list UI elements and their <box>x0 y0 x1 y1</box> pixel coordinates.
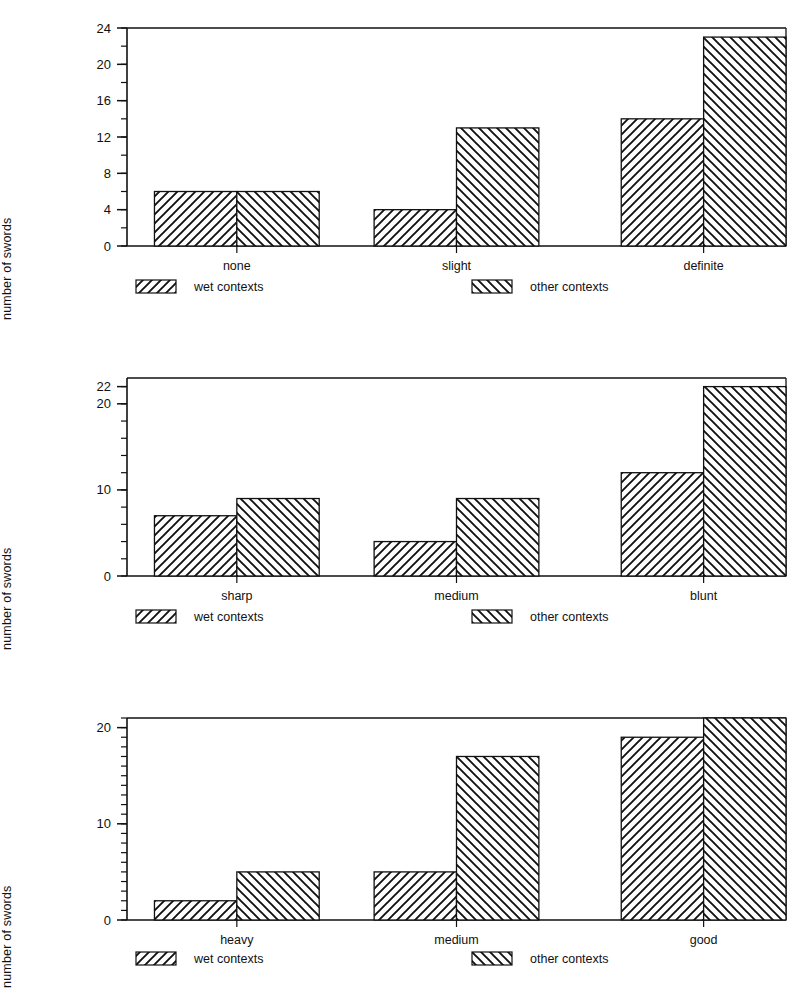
wet-contexts-swatch <box>136 610 176 623</box>
legend-label: wet contexts <box>193 280 263 294</box>
y-axis-title: number of swords <box>0 885 14 988</box>
y-tick-label: 22 <box>97 379 111 394</box>
bar-other-contexts <box>704 37 786 246</box>
wet-contexts-swatch <box>136 280 176 293</box>
y-tick-label: 16 <box>97 93 111 108</box>
x-tick-label: medium <box>434 589 478 603</box>
bar-wet-contexts <box>154 192 236 247</box>
x-tick-label: none <box>223 259 251 273</box>
bar-wet-contexts <box>374 872 456 920</box>
legend-label: wet contexts <box>193 610 263 624</box>
bar-other-contexts <box>237 499 319 576</box>
chart-panel-edge: 0102022sharpmediumbluntwet contextsother… <box>0 330 800 650</box>
bar-wet-contexts <box>621 473 703 576</box>
y-tick-label: 8 <box>104 166 111 181</box>
y-tick-label: 10 <box>97 816 111 831</box>
other-contexts-swatch <box>472 952 512 965</box>
bar-wet-contexts <box>154 901 236 920</box>
y-tick-label: 20 <box>97 396 111 411</box>
bar-wet-contexts <box>154 516 236 576</box>
y-axis-title: number of swords <box>0 547 14 650</box>
x-tick-label: medium <box>434 933 478 947</box>
chart-panel-condition: 01020heavymediumgoodwet contextsother co… <box>0 660 800 988</box>
y-tick-label: 20 <box>97 57 111 72</box>
bar-other-contexts <box>457 756 539 920</box>
x-tick-label: blunt <box>690 589 718 603</box>
y-axis-title: number of swords <box>0 217 14 320</box>
legend-label: other contexts <box>530 610 609 624</box>
x-tick-label: good <box>690 933 718 947</box>
y-tick-label: 0 <box>104 913 111 928</box>
bar-chart-3: 01020heavymediumgoodwet contextsother co… <box>0 660 800 988</box>
bar-chart-1: 04812162024noneslightdefinitewet context… <box>0 0 800 320</box>
bar-wet-contexts <box>374 210 456 246</box>
bar-other-contexts <box>237 192 319 247</box>
other-contexts-swatch <box>472 280 512 293</box>
legend-label: wet contexts <box>193 952 263 966</box>
y-tick-label: 20 <box>97 720 111 735</box>
x-tick-label: sharp <box>221 589 252 603</box>
bar-other-contexts <box>704 387 786 576</box>
other-contexts-swatch <box>472 610 512 623</box>
x-tick-label: slight <box>442 259 472 273</box>
y-tick-label: 10 <box>97 482 111 497</box>
bar-other-contexts <box>457 128 539 246</box>
x-tick-label: definite <box>683 259 723 273</box>
y-tick-label: 4 <box>104 202 111 217</box>
x-tick-label: heavy <box>220 933 254 947</box>
bar-other-contexts <box>704 718 786 920</box>
chart-panel-damage: 04812162024noneslightdefinitewet context… <box>0 0 800 320</box>
y-tick-label: 12 <box>97 130 111 145</box>
legend-label: other contexts <box>530 280 609 294</box>
y-tick-label: 24 <box>97 21 111 36</box>
bar-other-contexts <box>457 499 539 576</box>
bar-wet-contexts <box>621 119 703 246</box>
bar-other-contexts <box>237 872 319 920</box>
bar-wet-contexts <box>374 542 456 576</box>
legend-label: other contexts <box>530 952 609 966</box>
y-tick-label: 0 <box>104 239 111 254</box>
y-tick-label: 0 <box>104 569 111 584</box>
bar-wet-contexts <box>621 737 703 920</box>
wet-contexts-swatch <box>136 952 176 965</box>
bar-chart-2: 0102022sharpmediumbluntwet contextsother… <box>0 330 800 650</box>
